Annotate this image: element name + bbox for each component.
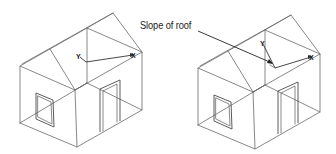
floor-back-right-edge [265,85,320,112]
ucs-x-label: X [131,52,136,59]
ucs-x-label: X [309,54,314,61]
window [214,95,232,129]
window [36,93,54,127]
right-wall [75,52,142,147]
house-right: X Y [198,15,320,149]
roof-ridge-gable [265,30,320,54]
roof-ridge-gable [87,28,142,52]
callout-slope-of-roof: Slope of roof [140,19,191,31]
left-wall [198,68,255,149]
roof-eave-double [200,15,291,66]
ucs-y-label: Y [260,40,265,47]
roof-corner-link [75,83,87,90]
left-wall [20,66,77,147]
ucs-icon-right: X Y [260,40,314,68]
roof-gable-edge [50,49,75,90]
roof-eave-double [22,13,113,64]
roof-corner-link [253,85,265,92]
callout-leader [198,31,273,64]
house-left: X Y [20,13,142,147]
right-wall [253,54,320,149]
roof-gable-edge [228,51,253,92]
floor-back-right-edge [87,83,142,110]
ucs-y-label: Y [76,53,81,60]
